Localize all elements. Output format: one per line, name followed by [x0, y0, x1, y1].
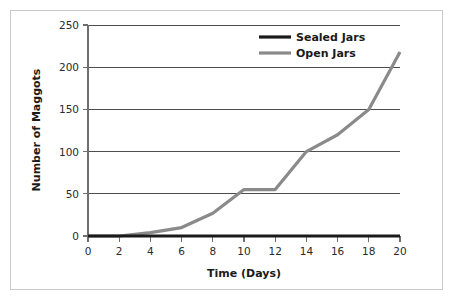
y-tick-label-250: 250 [59, 19, 79, 31]
y-axis [83, 25, 88, 236]
x-tick-label-18: 18 [362, 245, 375, 257]
x-tick-label-6: 6 [178, 245, 185, 257]
x-tick-label-20: 20 [393, 245, 406, 257]
legend-label-open-jars: Open Jars [296, 47, 356, 60]
x-tick-label-10: 10 [237, 245, 250, 257]
series-line-open-jars [88, 52, 400, 236]
x-axis-title: Time (Days) [207, 267, 281, 280]
y-tick-label-200: 200 [59, 61, 79, 73]
y-tick-label-0: 0 [72, 230, 79, 242]
x-tick-label-14: 14 [300, 245, 314, 257]
x-tick-label-2: 2 [116, 245, 123, 257]
x-tick-label-12: 12 [269, 245, 282, 257]
figure-root: 250 200 150 100 50 0 0 2 4 6 [0, 0, 456, 301]
y-axis-title: Number of Maggots [30, 68, 43, 191]
line-chart: 250 200 150 100 50 0 0 2 4 6 [0, 0, 456, 301]
x-tick-label-4: 4 [147, 245, 154, 257]
y-tick-label-150: 150 [59, 103, 79, 115]
series-group [88, 52, 400, 236]
x-tick-label-16: 16 [331, 245, 345, 257]
x-tick-label-8: 8 [209, 245, 216, 257]
y-tick-label-50: 50 [66, 188, 79, 200]
y-tick-labels: 250 200 150 100 50 0 [59, 19, 79, 242]
x-tick-label-0: 0 [85, 245, 92, 257]
y-tick-label-100: 100 [59, 146, 79, 158]
legend: Sealed Jars Open Jars [259, 31, 366, 60]
legend-label-sealed-jars: Sealed Jars [296, 31, 366, 44]
x-tick-labels: 0 2 4 6 8 10 12 14 16 18 20 [85, 245, 407, 257]
